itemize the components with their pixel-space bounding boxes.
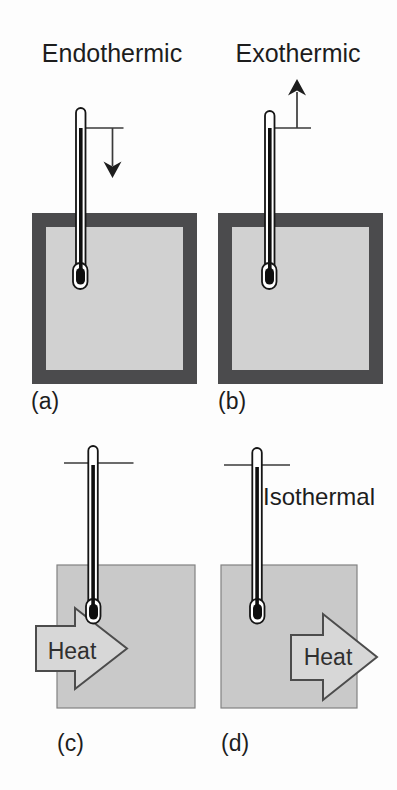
panel-d-label: (d) xyxy=(221,730,249,756)
panel-d: Heat Isothermal (d) xyxy=(221,448,377,756)
thermometer-bulb xyxy=(89,604,98,620)
heat-label: Heat xyxy=(304,644,353,670)
thermometer-bulb xyxy=(253,604,262,620)
panel-c: Heat (c) xyxy=(36,446,195,756)
heat-label: Heat xyxy=(48,638,97,664)
panel-a-label: (a) xyxy=(31,388,59,414)
exothermic-title: Exothermic xyxy=(235,39,360,67)
panel-a: (a) xyxy=(31,108,197,414)
panel-b: (b) xyxy=(218,79,383,414)
mercury-column xyxy=(268,128,272,273)
figure-endothermic-exothermic-isothermal: Endothermic Exothermic (a) (b) xyxy=(0,0,397,790)
thermometer-bulb xyxy=(76,268,85,285)
thermometer-bulb xyxy=(265,268,274,285)
diagram-canvas: Endothermic Exothermic (a) (b) xyxy=(0,0,397,790)
endothermic-title: Endothermic xyxy=(42,39,182,67)
mercury-column xyxy=(79,128,83,273)
panel-c-label: (c) xyxy=(57,730,84,756)
container-contents xyxy=(232,227,369,370)
panel-b-label: (b) xyxy=(218,388,246,414)
mercury-column xyxy=(255,467,259,608)
isothermal-annotation: Isothermal xyxy=(263,483,375,510)
mercury-column xyxy=(91,465,95,608)
container-contents xyxy=(46,227,183,370)
